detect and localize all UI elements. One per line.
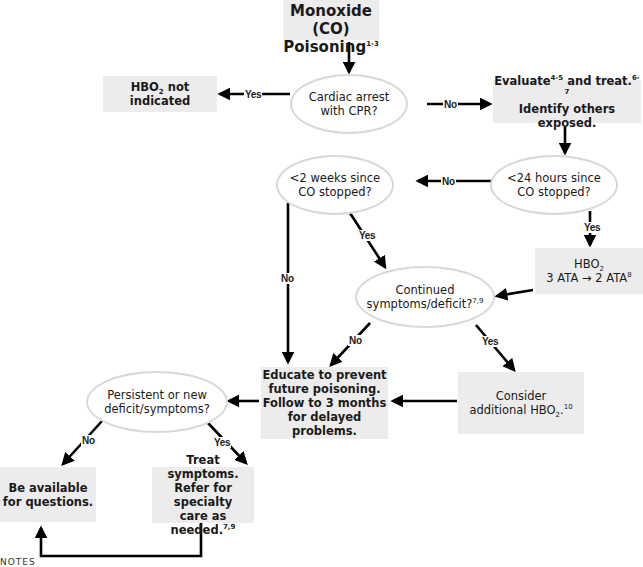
edge-label-cardiac-yes: Yes (244, 89, 262, 100)
treat-line2: Refer for specialty (152, 481, 254, 509)
decision-lt-2-weeks: <2 weeks since CO stopped? (276, 155, 394, 215)
action-consider-hbo: Consider additional HBO2.10 (458, 372, 584, 434)
persistent-line1: Persistent or new (107, 388, 207, 402)
action-evaluate: Evaluate4-5 and treat.6-7 Identify other… (493, 80, 641, 123)
lt-24-hours-line2: CO stopped? (517, 185, 590, 199)
persistent-line2: deficit/symptoms? (104, 402, 210, 416)
evaluate-line1: Evaluate4-5 and treat.6-7 (493, 74, 641, 102)
edge-label-24h-no: No (441, 176, 456, 187)
title-box: Carbon Monoxide (CO) Poisoning1-3 (283, 0, 379, 40)
decision-persistent-symptoms: Persistent or new deficit/symptoms? (86, 371, 228, 433)
edge-label-24h-yes: Yes (583, 222, 601, 233)
decision-continued-symptoms: Continued symptoms/deficit?7,9 (355, 266, 495, 328)
be-available-line2: for questions. (3, 495, 93, 509)
consider-line1: Consider (496, 389, 547, 403)
cardiac-arrest-line2: with CPR? (320, 104, 377, 118)
educate-line4: for delayed problems. (261, 410, 388, 438)
educate-line3: Follow to 3 months (263, 396, 387, 410)
decision-cardiac-arrest: Cardiac arrest with CPR? (290, 74, 408, 134)
arrow-continued-yes (476, 325, 514, 370)
edge-label-continued-no: No (348, 335, 363, 346)
action-be-available: Be available for questions. (0, 467, 96, 522)
edge-label-cardiac-no: No (443, 99, 458, 110)
lt-2-weeks-line2: CO stopped? (298, 185, 371, 199)
continued-line1: Continued (395, 283, 454, 297)
hbo-not-indicated-text: HBO2 not indicated (103, 80, 217, 108)
cardiac-arrest-line1: Cardiac arrest (309, 90, 390, 104)
action-treat-symptoms: Treat symptoms. Refer for specialty care… (152, 467, 254, 523)
evaluate-line2: Identify others exposed. (493, 102, 641, 130)
educate-line2: future poisoning. (268, 382, 380, 396)
edge-label-2w-no: No (280, 273, 295, 284)
lt-2-weeks-line1: <2 weeks since (290, 171, 380, 185)
arrow-hbo-to-continued (497, 290, 533, 296)
hbo-treatment-line1: HBO2 (574, 257, 604, 271)
educate-line1: Educate to prevent (262, 368, 386, 382)
treat-line3: care as needed.7,9 (152, 509, 254, 537)
treat-line1: Treat symptoms. (152, 453, 254, 481)
edge-label-continued-yes: Yes (481, 336, 499, 347)
footer-notes-heading: NOTES (0, 557, 36, 567)
title-line1: Carbon Monoxide (283, 0, 379, 20)
edge-label-2w-yes: Yes (358, 230, 376, 241)
action-hbo-treatment: HBO2 3 ATA → 2 ATA8 (535, 248, 643, 294)
title-line2: (CO) Poisoning1-3 (283, 20, 379, 56)
action-hbo-not-indicated: HBO2 not indicated (103, 76, 217, 112)
consider-line2: additional HBO2.10 (469, 403, 572, 417)
lt-24-hours-line1: <24 hours since (507, 171, 601, 185)
be-available-line1: Be available (8, 481, 87, 495)
continued-line2: symptoms/deficit?7,9 (367, 297, 484, 311)
edge-label-persistent-no: No (81, 435, 96, 446)
decision-lt-24-hours: <24 hours since CO stopped? (490, 155, 618, 215)
edge-label-persistent-yes: Yes (213, 437, 231, 448)
hbo-treatment-line2: 3 ATA → 2 ATA8 (546, 271, 631, 285)
action-educate: Educate to prevent future poisoning. Fol… (261, 367, 388, 439)
